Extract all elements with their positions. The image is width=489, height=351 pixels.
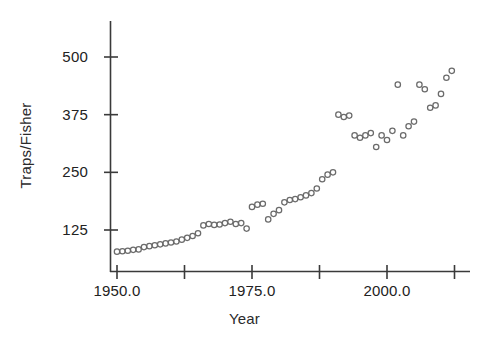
- y-tick-label-375: 375: [28, 106, 88, 123]
- data-point: [147, 243, 152, 248]
- data-point: [174, 239, 179, 244]
- data-point: [433, 103, 438, 108]
- data-point: [212, 222, 217, 227]
- data-point: [401, 133, 406, 138]
- data-point: [417, 82, 422, 87]
- data-point: [347, 113, 352, 118]
- data-point: [320, 177, 325, 182]
- data-point: [228, 219, 233, 224]
- data-point: [179, 237, 184, 242]
- data-point: [449, 68, 454, 73]
- data-point: [271, 211, 276, 216]
- axis-layer: [104, 21, 470, 279]
- data-point: [336, 112, 341, 117]
- data-point: [368, 130, 373, 135]
- data-point: [303, 193, 308, 198]
- data-point: [384, 137, 389, 142]
- x-tick-label-2000: 2000.0: [342, 282, 432, 299]
- scatter-plot-figure: Traps/Fisher 500 375 250 125 1950.0 1975…: [0, 0, 489, 351]
- data-point: [260, 201, 265, 206]
- data-point: [411, 119, 416, 124]
- data-point: [363, 133, 368, 138]
- data-point: [276, 207, 281, 212]
- y-tick-label-125: 125: [28, 221, 88, 238]
- data-point: [120, 249, 125, 254]
- data-point: [163, 241, 168, 246]
- data-point: [131, 247, 136, 252]
- data-point: [406, 124, 411, 129]
- data-point: [239, 220, 244, 225]
- data-point: [206, 221, 211, 226]
- data-point: [190, 233, 195, 238]
- data-point: [152, 243, 157, 248]
- data-points-layer: [114, 68, 454, 254]
- data-point: [282, 200, 287, 205]
- data-point: [244, 226, 249, 231]
- data-point: [233, 221, 238, 226]
- data-point: [136, 247, 141, 252]
- data-point: [395, 82, 400, 87]
- x-axis-title: Year: [229, 310, 260, 327]
- data-point: [374, 144, 379, 149]
- data-point: [298, 195, 303, 200]
- data-point: [422, 87, 427, 92]
- y-tick-label-250: 250: [28, 163, 88, 180]
- data-point: [379, 133, 384, 138]
- data-point: [357, 135, 362, 140]
- data-point: [390, 128, 395, 133]
- data-point: [249, 204, 254, 209]
- y-axis-title-container: Traps/Fisher: [10, 0, 40, 290]
- data-point: [217, 222, 222, 227]
- data-point: [185, 235, 190, 240]
- data-point: [222, 220, 227, 225]
- data-point: [168, 240, 173, 245]
- data-point: [438, 91, 443, 96]
- y-tick-label-500: 500: [28, 48, 88, 65]
- data-point: [114, 249, 119, 254]
- x-tick-label-1950: 1950.0: [72, 282, 162, 299]
- data-point: [287, 197, 292, 202]
- x-tick-label-1975: 1975.0: [207, 282, 297, 299]
- data-point: [325, 172, 330, 177]
- data-point: [195, 231, 200, 236]
- data-point: [341, 114, 346, 119]
- data-point: [293, 196, 298, 201]
- data-point: [428, 105, 433, 110]
- data-point: [266, 217, 271, 222]
- x-axis-title-container: Year: [0, 310, 489, 328]
- data-point: [201, 223, 206, 228]
- data-point: [141, 244, 146, 249]
- data-point: [330, 170, 335, 175]
- data-point: [125, 248, 130, 253]
- data-point: [255, 202, 260, 207]
- data-point: [444, 75, 449, 80]
- data-point: [352, 133, 357, 138]
- data-point: [158, 242, 163, 247]
- data-point: [309, 190, 314, 195]
- data-point: [314, 186, 319, 191]
